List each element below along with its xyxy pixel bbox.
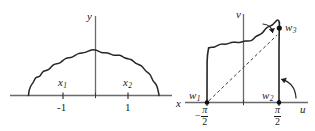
uv-plane-panel: v u w1 w2 w3 − π 2 π 2 bbox=[180, 0, 315, 131]
xy-plane-panel: y x x1 x2 -1 1 bbox=[0, 0, 190, 131]
v-axis-label: v bbox=[236, 9, 241, 20]
boundary-arc-curve bbox=[29, 50, 160, 96]
point-label-w1: w1 bbox=[189, 90, 200, 101]
region-left-side bbox=[207, 48, 209, 103]
point-label-x2: x2 bbox=[123, 77, 132, 88]
xy-plane-drawing bbox=[0, 0, 190, 131]
denominator: 2 bbox=[274, 117, 281, 127]
denominator: 2 bbox=[201, 117, 208, 127]
point-label-w3: w3 bbox=[285, 22, 296, 33]
angle-arrowhead-at-w3 bbox=[269, 28, 274, 32]
vertex-dot-w3 bbox=[277, 25, 282, 30]
u-tick-label-plus-pi-over-2: π 2 bbox=[274, 105, 281, 127]
pi-numerator: π bbox=[274, 105, 281, 115]
x-tick-label-minus1: -1 bbox=[57, 102, 66, 113]
u-tick-label-minus-pi-over-2: − π 2 bbox=[195, 105, 208, 127]
y-axis-label: y bbox=[87, 11, 92, 22]
u-axis-label: u bbox=[300, 104, 306, 115]
point-label-w2: w2 bbox=[262, 90, 273, 101]
point-label-x1: x1 bbox=[58, 77, 67, 88]
conformal-mapping-figure: y x x1 x2 -1 1 bbox=[0, 0, 315, 131]
x-tick-label-plus1: 1 bbox=[125, 102, 131, 113]
pi-numerator: π bbox=[201, 105, 208, 115]
